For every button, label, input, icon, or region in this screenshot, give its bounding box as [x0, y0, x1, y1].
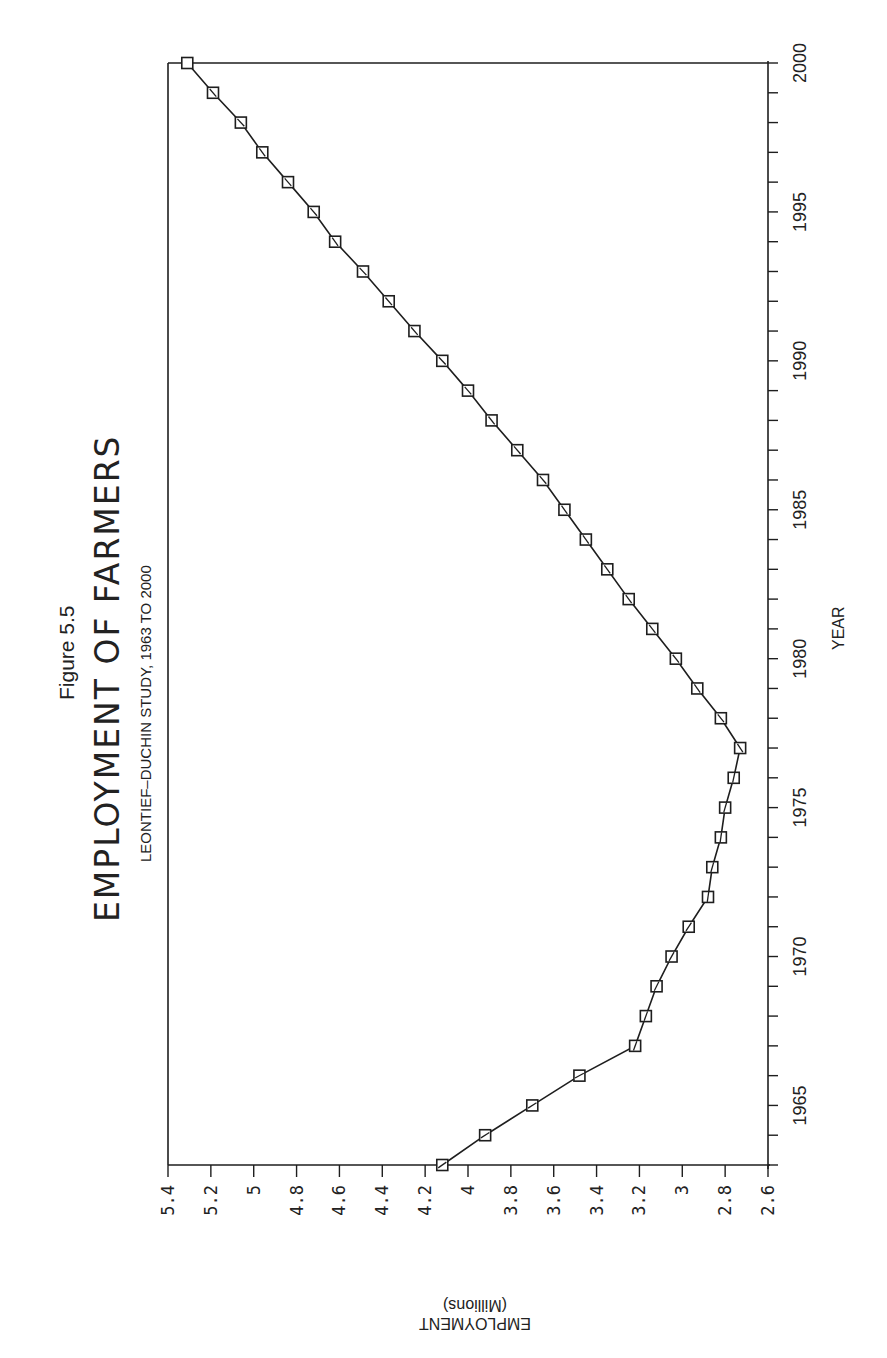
- employment-tick-label: 3.8: [501, 1185, 521, 1216]
- employment-tick-label: 5: [244, 1185, 264, 1195]
- employment-tick-label: 4.6: [329, 1185, 349, 1216]
- year-tick-label: 1985: [790, 490, 810, 530]
- year-tick-label: 1975: [790, 788, 810, 828]
- year-tick-label: 1995: [790, 192, 810, 232]
- line-chart: 19651970197519801985199019952000 5.45.25…: [0, 0, 887, 1358]
- employment-tick-label: 5.4: [158, 1185, 178, 1216]
- year-axis: 19651970197519801985199019952000: [768, 43, 810, 1169]
- employment-axis: 5.45.254.84.64.44.243.83.63.43.232.82.6: [158, 1165, 778, 1216]
- employment-tick-label: 4.8: [287, 1185, 307, 1216]
- employment-tick-label: 2.8: [715, 1185, 735, 1216]
- year-tick-label: 1970: [790, 936, 810, 976]
- employment-tick-label: 2.6: [758, 1185, 778, 1216]
- employment-tick-label: 3.2: [629, 1185, 649, 1216]
- data-series: [182, 58, 746, 1171]
- year-tick-label: 1990: [790, 341, 810, 381]
- plot-frame: [168, 63, 768, 1165]
- square-marker: [182, 58, 193, 69]
- year-tick-label: 1965: [790, 1085, 810, 1125]
- employment-tick-label: 4: [458, 1185, 478, 1195]
- employment-tick-label: 4.2: [415, 1185, 435, 1216]
- year-tick-label: 1980: [790, 639, 810, 679]
- year-tick-label: 2000: [790, 43, 810, 83]
- employment-tick-label: 3.4: [587, 1185, 607, 1216]
- employment-tick-label: 4.4: [372, 1185, 392, 1216]
- series-line: [187, 63, 740, 1165]
- employment-tick-label: 3: [672, 1185, 692, 1195]
- employment-tick-label: 3.6: [544, 1185, 564, 1216]
- employment-tick-label: 5.2: [201, 1185, 221, 1216]
